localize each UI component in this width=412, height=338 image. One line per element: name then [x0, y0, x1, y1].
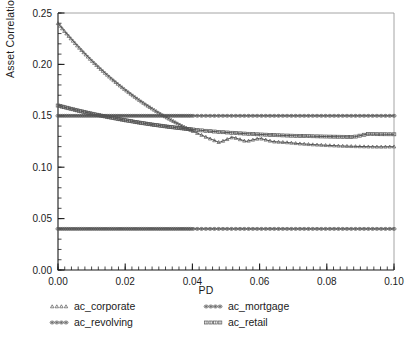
y-tick-label: 0.20: [33, 59, 53, 70]
legend-item-ac_corporate[interactable]: ac_corporate: [49, 298, 197, 314]
x-axis-title: PD: [0, 284, 412, 296]
square-grid-marker-icon: [203, 318, 223, 327]
series-ac_revolving: [56, 227, 396, 230]
legend-label: ac_mortgage: [228, 301, 289, 312]
legend-item-ac_revolving[interactable]: ac_revolving: [49, 314, 197, 330]
y-tick-label: 0.25: [33, 8, 53, 19]
legend-label: ac_retail: [228, 317, 268, 328]
circle-plus-marker-icon: [49, 318, 69, 327]
legend-label: ac_corporate: [74, 301, 135, 312]
legend-item-ac_mortgage[interactable]: ac_mortgage: [203, 298, 363, 314]
legend-item-ac_retail[interactable]: ac_retail: [203, 314, 363, 330]
legend-label: ac_revolving: [74, 317, 133, 328]
y-tick-label: 0.10: [33, 162, 53, 173]
chart-legend: ac_corporateac_mortgageac_revolvingac_re…: [0, 298, 412, 330]
y-tick-label: 0.00: [33, 265, 53, 276]
circle-plus-marker-icon: [203, 302, 223, 311]
y-tick-label: 0.15: [33, 110, 53, 121]
triangle-marker-icon: [49, 302, 69, 311]
y-tick-label: 0.05: [33, 213, 53, 224]
y-axis-title-text: Asset Correlation: [4, 0, 16, 96]
x-axis-title-text: PD: [199, 284, 214, 296]
y-axis-title: Asset Correlation: [4, 0, 16, 96]
